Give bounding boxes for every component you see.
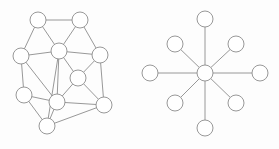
star-graph: [142, 11, 268, 136]
graph-edge: [65, 103, 96, 105]
graph-edge: [55, 108, 97, 123]
graph-edge: [211, 79, 231, 98]
graph-node[interactable]: [92, 47, 108, 63]
graph-edge: [22, 64, 24, 87]
graph-edge: [211, 49, 230, 67]
figure-root: [0, 0, 279, 149]
graph-node[interactable]: [70, 70, 86, 86]
graph-node[interactable]: [167, 36, 183, 52]
mesh-graph-nodes: [13, 12, 112, 134]
graph-edge: [84, 61, 95, 72]
graph-edge: [57, 59, 58, 94]
graph-node[interactable]: [228, 95, 244, 111]
graph-edge: [181, 50, 200, 68]
graph-node[interactable]: [51, 43, 67, 59]
graph-node[interactable]: [96, 97, 112, 113]
graph-edge: [29, 52, 51, 55]
graph-edge: [24, 27, 34, 49]
graph-node[interactable]: [142, 65, 158, 81]
graph-canvas: [0, 0, 279, 149]
graph-node[interactable]: [228, 36, 244, 52]
mesh-graph: [13, 12, 112, 134]
graph-node[interactable]: [16, 87, 32, 103]
graph-node[interactable]: [39, 118, 55, 134]
graph-edge: [64, 58, 74, 72]
graph-node[interactable]: [197, 11, 213, 27]
graph-node[interactable]: [197, 120, 213, 136]
graph-edge: [62, 84, 72, 96]
graph-edge: [63, 27, 75, 45]
graph-edge: [50, 109, 54, 118]
graph-node[interactable]: [30, 12, 46, 28]
graph-node[interactable]: [49, 94, 65, 110]
graph-node[interactable]: [13, 48, 29, 64]
graph-edge: [29, 101, 42, 119]
graph-node-hub[interactable]: [197, 65, 213, 81]
graph-node[interactable]: [167, 95, 183, 111]
graph-node[interactable]: [72, 12, 88, 28]
graph-edge: [101, 63, 104, 97]
graph-edge: [32, 97, 49, 101]
graph-edge: [42, 27, 54, 45]
graph-edge: [84, 27, 96, 48]
graph-edge: [181, 79, 200, 98]
graph-node[interactable]: [252, 65, 268, 81]
graph-edge: [67, 52, 92, 54]
graph-edge: [84, 84, 99, 99]
